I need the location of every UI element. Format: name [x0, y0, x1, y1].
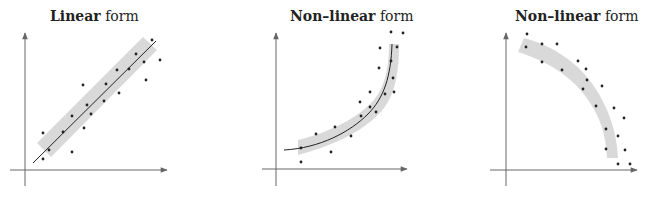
fit-line	[33, 41, 156, 163]
panel-linear	[10, 33, 167, 186]
panel-nonlinear-increasing	[262, 31, 407, 186]
diagram-canvas	[0, 0, 645, 198]
confidence-band	[298, 44, 399, 155]
confidence-band	[518, 38, 618, 158]
panel-nonlinear-decreasing	[490, 33, 637, 186]
confidence-band	[37, 37, 157, 157]
